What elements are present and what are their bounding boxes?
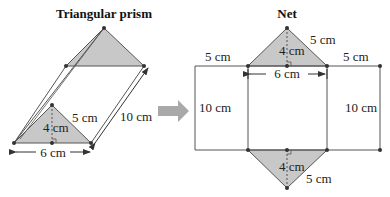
net-left-width-label: 5 cm [205,49,231,64]
prism-slant-label: 5 cm [72,110,98,125]
net-bottom-slant-label: 5 cm [306,171,332,186]
net-bottom-height-label: 4 cm [279,159,305,174]
diagram-canvas: Triangular prism 4 cm 5 cm 6 cm [0,0,390,197]
lateral-edge-right [91,66,144,143]
prism-height-label: 4 cm [43,120,69,135]
prism-base-label: 6 cm [40,145,66,160]
prism-net: Net [195,6,382,190]
net-top-height-label: 4 cm [279,43,305,58]
triangular-prism: Triangular prism 4 cm 5 cm 6 cm [12,6,152,160]
prism-title: Triangular prism [56,6,152,21]
length-dimension-arrow [95,68,148,143]
net-right-height-label: 10 cm [345,100,377,115]
net-top-slant-label: 5 cm [310,32,336,47]
net-base-label: 6 cm [274,66,300,81]
right-arrow-icon [158,100,189,122]
net-left-height-label: 10 cm [199,100,231,115]
prism-length-label: 10 cm [120,109,152,124]
net-right-width-label: 5 cm [343,49,369,64]
net-title: Net [277,6,297,21]
back-triangle-face [66,28,144,66]
